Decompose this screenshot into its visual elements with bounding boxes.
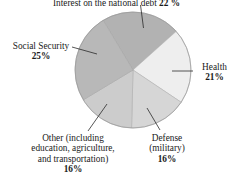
pie-label-defense-line-2: (military) [137,143,197,153]
pie-label-interest-on-the-national-debt: Interest on the national debt 22 % [0,0,233,8]
pie-label-interest-percent: 22 % [159,0,180,8]
pie-label-health-percent: 21% [196,72,233,82]
pie-label-defense-percent: 16% [137,154,197,164]
pie-label-defense-line-1: Defense [137,133,197,143]
pie-chart-figure: Interest on the national debt 22 % Socia… [0,0,233,179]
pie-label-social-security: Social Security 25% [2,41,80,62]
pie-label-health-text: Health [196,62,233,72]
pie-label-health: Health 21% [196,62,233,83]
pie-label-other-line-1: Other (including [12,133,134,143]
pie-label-social-security-percent: 25% [2,51,80,61]
pie-label-other-line-2: education, agriculture, [12,143,134,153]
pie-label-interest-text: Interest on the national debt [53,0,157,8]
pie-label-other: Other (including education, agriculture,… [12,133,134,175]
pie-label-other-percent: 16% [12,164,134,174]
pie-label-social-security-text: Social Security [2,41,80,51]
pie-label-other-line-3: and transportation) [12,154,134,164]
pie-label-defense-military: Defense (military) 16% [137,133,197,164]
